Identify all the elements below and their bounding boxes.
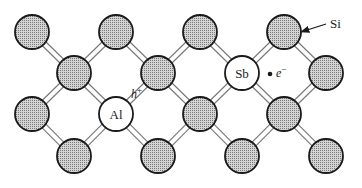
bond-line	[294, 46, 312, 63]
bond-line	[84, 87, 102, 104]
bond-line	[210, 46, 228, 63]
bond-line	[256, 83, 274, 100]
electron-charge: −	[281, 64, 286, 74]
bond-line	[84, 124, 102, 142]
atom-si	[141, 139, 175, 173]
atom-si	[15, 97, 49, 131]
bond-line	[172, 83, 190, 100]
atom-si	[225, 139, 259, 173]
hole-charge: +	[137, 85, 142, 95]
atom-circle	[183, 15, 217, 49]
atom-al: Al	[99, 97, 133, 131]
bond-line	[294, 128, 312, 146]
atom-si	[183, 15, 217, 49]
bond-line	[252, 87, 270, 104]
hole-label: h+	[131, 85, 142, 101]
atom-label: Sb	[235, 66, 249, 81]
si-pointer-arrow	[301, 24, 326, 32]
bond-line	[172, 46, 190, 63]
free-electron-dot	[268, 72, 273, 77]
atom-si	[15, 15, 49, 49]
bond-line	[46, 42, 64, 59]
bond-line	[168, 42, 186, 59]
bond-line	[252, 42, 270, 59]
bond-line	[256, 128, 274, 146]
bond-line	[84, 42, 102, 59]
atom-circle	[15, 97, 49, 131]
atom-si	[267, 97, 301, 131]
bond-line	[294, 83, 312, 100]
bond-line	[126, 128, 144, 146]
atom-circle	[183, 97, 217, 131]
si-label: Si	[330, 16, 341, 31]
atom-circle	[225, 139, 259, 173]
bond-line	[88, 83, 106, 100]
atom-circle	[267, 15, 301, 49]
atom-circle	[99, 15, 133, 49]
atom-circle	[309, 56, 343, 90]
bond-line	[172, 128, 190, 146]
bond-line	[214, 124, 232, 142]
atom-si	[267, 15, 301, 49]
lattice-svg: SbAl Si h+ e−	[0, 0, 362, 188]
atom-circle	[309, 139, 343, 173]
atom-circle	[57, 139, 91, 173]
bond-line	[42, 128, 60, 146]
atom-si	[99, 15, 133, 49]
atom-si	[57, 56, 91, 90]
bond-line	[168, 124, 186, 142]
bond-line	[42, 46, 60, 63]
bond-line	[126, 46, 144, 63]
bond-line	[210, 83, 228, 100]
bond-line	[46, 87, 64, 104]
atom-label: Al	[110, 107, 123, 122]
bond-line	[298, 42, 316, 59]
covalent-bonds	[42, 42, 316, 146]
bond-line	[46, 124, 64, 142]
atom-circle	[141, 56, 175, 90]
atom-si	[141, 56, 175, 90]
bond-line	[88, 46, 106, 63]
atom-si	[183, 97, 217, 131]
atoms: SbAl	[15, 15, 343, 173]
bond-line	[214, 42, 232, 59]
bond-line	[210, 128, 228, 146]
bond-line	[256, 46, 274, 63]
electron-label: e−	[276, 64, 286, 80]
bond-line	[130, 42, 148, 59]
bond-line	[168, 87, 186, 104]
silicon-lattice-diagram: SbAl Si h+ e−	[0, 0, 362, 188]
atom-circle	[267, 97, 301, 131]
bond-line	[298, 87, 316, 104]
bond-line	[42, 83, 60, 100]
atom-si	[309, 56, 343, 90]
atom-sb: Sb	[225, 56, 259, 90]
bond-line	[298, 124, 316, 142]
atom-circle	[15, 15, 49, 49]
bond-line	[252, 124, 270, 142]
atom-si	[309, 139, 343, 173]
bond-line	[214, 87, 232, 104]
atom-circle	[57, 56, 91, 90]
atom-circle	[141, 139, 175, 173]
atom-si	[57, 139, 91, 173]
bond-line	[130, 124, 148, 142]
bond-line	[88, 128, 106, 146]
